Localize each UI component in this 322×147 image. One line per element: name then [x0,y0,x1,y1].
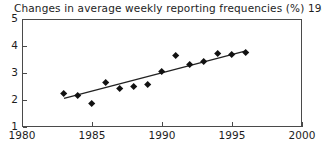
chart-figure: Changes in average weekly reporting freq… [0,0,322,147]
x-tick-mark [302,122,303,127]
y-tick-label: 3 [11,66,18,79]
y-tick-label: 4 [11,39,18,52]
x-tick-label: 2000 [288,129,315,142]
x-tick-label: 1985 [78,129,105,142]
x-tick-label: 1990 [148,129,175,142]
plot-frame: 54321 19801985199019952000 [22,19,302,127]
y-tick-mark [23,127,27,128]
y-tick-label: 5 [11,12,18,25]
chart-title: Changes in average weekly reporting freq… [14,1,314,15]
x-tick-label: 1995 [218,129,245,142]
x-tick-label: 1980 [8,129,35,142]
data-layer [22,19,302,127]
y-tick-label: 2 [11,93,18,106]
